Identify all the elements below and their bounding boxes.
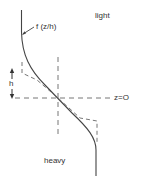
- pointer-arrow-icon: [22, 27, 34, 35]
- profile-curve: [22, 10, 97, 176]
- profile-figure: [0, 0, 141, 181]
- interface-level-label: z=O: [114, 94, 129, 102]
- density-profile-diagram: f (z/h) light heavy z=O h: [0, 0, 141, 181]
- heavy-layer-label: heavy: [44, 157, 65, 165]
- profile-function-label: f (z/h): [36, 23, 56, 31]
- light-layer-label: light: [95, 12, 110, 20]
- thickness-down-arrow-icon: [10, 89, 14, 99]
- thickness-up-arrow-icon: [10, 68, 14, 79]
- linear-approximation-dashed: [22, 62, 97, 142]
- thickness-label: h: [9, 80, 13, 88]
